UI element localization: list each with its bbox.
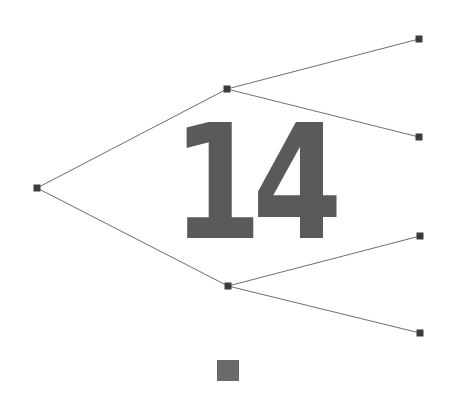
tree-diagram: 14 bbox=[0, 0, 449, 409]
tree-node-leaf-4 bbox=[417, 330, 424, 337]
page-number-label: 14 bbox=[172, 108, 282, 258]
tree-node-mid-lower bbox=[225, 283, 232, 290]
tree-edge bbox=[228, 286, 420, 333]
square-marker bbox=[217, 360, 239, 381]
tree-edge bbox=[227, 39, 419, 89]
tree-node-leaf-1 bbox=[416, 36, 423, 43]
tree-node-leaf-3 bbox=[417, 233, 424, 240]
tree-node-root bbox=[34, 185, 41, 192]
tree-node-leaf-2 bbox=[416, 134, 423, 141]
